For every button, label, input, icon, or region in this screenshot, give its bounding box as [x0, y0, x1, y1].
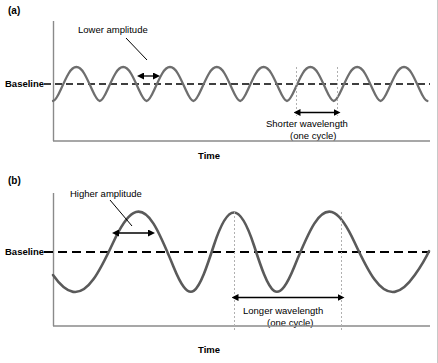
waveform-a	[53, 67, 427, 101]
amplitude-leader-b	[110, 200, 132, 226]
wave-figure: (a) Baseline Lower amplitude Shorter wav…	[0, 0, 438, 363]
wave-graphics	[0, 0, 438, 363]
amplitude-leader-a	[126, 38, 147, 60]
